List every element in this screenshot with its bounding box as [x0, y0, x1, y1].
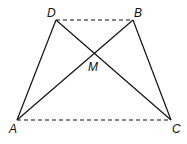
label-C: C: [172, 122, 181, 136]
segment-AD: [17, 20, 56, 120]
label-A: A: [8, 122, 17, 136]
segment-BC: [133, 20, 171, 120]
geometry-diagram: D B M A C: [0, 0, 187, 144]
segment-AB: [17, 20, 133, 120]
label-M: M: [88, 60, 98, 74]
label-B: B: [134, 6, 142, 20]
label-D: D: [47, 6, 56, 20]
segment-DC: [56, 20, 171, 120]
